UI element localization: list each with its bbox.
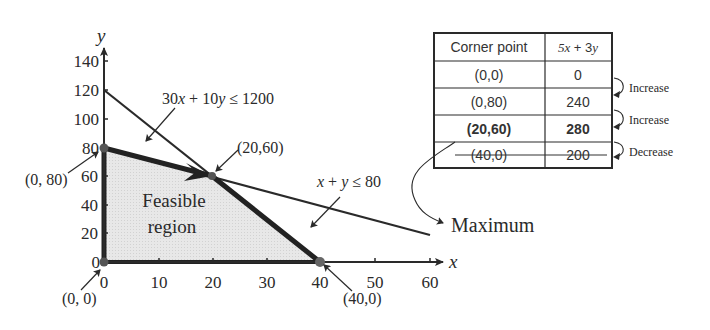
y-tick-40: 40	[81, 196, 98, 215]
feasible-region	[104, 148, 320, 262]
corner-point-20-60	[208, 172, 216, 180]
x-tick-10: 10	[151, 273, 168, 292]
point-label-0-0: (0, 0)	[62, 290, 97, 308]
feasible-region-label-line1: Feasible	[142, 190, 205, 211]
y-tick-60: 60	[81, 167, 98, 186]
y-tick-140: 140	[74, 52, 100, 71]
table-row-2-value: 240	[566, 94, 590, 110]
corner-point-40-0	[315, 257, 325, 267]
x-tick-60: 60	[422, 273, 439, 292]
change-arrows	[614, 78, 623, 157]
table-header-corner-point: Corner point	[450, 39, 527, 55]
point-label-0-80: (0, 80)	[25, 171, 68, 189]
y-tick-0: 0	[92, 253, 101, 272]
constraint-2-label: x + y ≤ 80	[316, 173, 381, 191]
change-arrowheads	[613, 91, 620, 160]
x-tick-40: 40	[312, 273, 329, 292]
constraint-1-label: 30x + 10y ≤ 1200	[162, 90, 274, 108]
maximum-label: Maximum	[451, 214, 535, 236]
point-20-60-pointer-arrow-icon	[216, 150, 238, 171]
y-axis-label: y	[95, 25, 106, 46]
change-label-2: Increase	[629, 113, 669, 127]
change-label-3: Decrease	[629, 145, 673, 159]
point-0-0-pointer-arrow-icon	[81, 270, 100, 290]
table-row-1-value: 0	[574, 67, 582, 83]
corner-point-table: Corner point 5x + 3y (0,0) 0 (0,80) 240 …	[434, 33, 612, 168]
y-tick-120: 120	[74, 81, 100, 100]
table-row-2-point: (0,80)	[471, 94, 508, 110]
corner-point-0-0	[100, 258, 109, 267]
point-label-20-60: (20,60)	[237, 139, 284, 157]
y-tick-100: 100	[74, 110, 100, 129]
corner-point-0-80	[100, 144, 109, 153]
y-tick-80: 80	[82, 139, 99, 158]
x-tick-20: 20	[205, 273, 222, 292]
linear-programming-diagram: 0 10 20 30 40 50 60 0 20 40 60 80 100 12…	[0, 0, 710, 330]
table-row-3-value: 280	[566, 121, 590, 137]
change-label-1: Increase	[629, 81, 669, 95]
x-tick-0: 0	[100, 273, 109, 292]
point-label-40-0: (40,0)	[343, 290, 382, 308]
table-row-3-point: (20,60)	[467, 121, 511, 137]
constraint-2-pointer-arrow-icon	[311, 197, 340, 227]
x-tick-30: 30	[259, 273, 276, 292]
feasible-region-label-line2: region	[148, 216, 197, 237]
y-tick-20: 20	[81, 224, 98, 243]
table-row-1-point: (0,0)	[475, 67, 504, 83]
table-header-objective: 5x + 3y	[558, 40, 598, 55]
x-axis-label: x	[448, 251, 458, 272]
